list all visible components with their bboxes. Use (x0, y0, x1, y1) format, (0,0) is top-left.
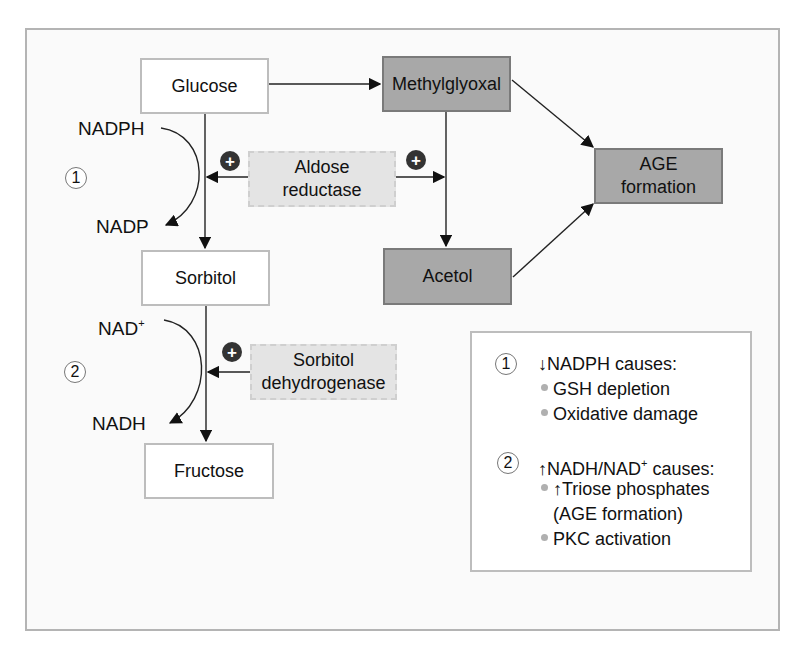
legend-bullet-continuation: (AGE formation) (553, 503, 683, 525)
methylglyoxal-label: Methylglyoxal (392, 73, 501, 96)
bullet-text: Oxidative damage (553, 404, 698, 424)
plus-symbol: + (411, 152, 421, 169)
methylglyoxal-node: Methylglyoxal (382, 56, 511, 112)
nadh-label: NADH (92, 413, 146, 435)
legend-heading-text-tail: causes: (647, 459, 714, 479)
bullet-icon (541, 534, 548, 541)
glucose-node: Glucose (140, 58, 269, 114)
nad-superscript: + (138, 317, 144, 329)
plus-symbol: + (227, 344, 237, 361)
legend-bullet: PKC activation (541, 528, 671, 550)
fructose-label: Fructose (174, 460, 244, 483)
legend-marker-1: 1 (495, 353, 517, 375)
legend-heading-2: ↑NADH/NAD+ causes: (538, 452, 715, 480)
nad-plus-label: NAD+ (98, 312, 145, 340)
bullet-text: (AGE formation) (553, 504, 683, 524)
legend-number: 2 (504, 455, 513, 471)
sorbitol-label: Sorbitol (175, 267, 236, 290)
activator-plus-icon: + (220, 151, 240, 171)
plus-symbol: + (225, 153, 235, 170)
sdh-label-line2: dehydrogenase (261, 372, 385, 395)
aldose-label-line1: Aldose (294, 156, 349, 179)
up-arrow-icon: ↑ (538, 459, 547, 479)
legend-heading-text: NADPH causes: (547, 354, 677, 374)
acetol-label: Acetol (422, 265, 472, 288)
bullet-text: GSH depletion (553, 379, 670, 399)
step-marker-1: 1 (65, 167, 87, 189)
bullet-icon (541, 409, 548, 416)
age-formation-node: AGE formation (594, 148, 723, 204)
age-label-line2: formation (621, 176, 696, 199)
step-marker-2: 2 (64, 361, 86, 383)
activator-plus-icon: + (406, 150, 426, 170)
legend-number: 1 (502, 356, 511, 372)
nadph-label: NADPH (78, 118, 145, 140)
legend-heading-text: NADH/NAD (547, 459, 641, 479)
legend-bullet: ↑Triose phosphates (541, 478, 709, 500)
step-number: 1 (72, 170, 81, 186)
sorbitol-node: Sorbitol (141, 250, 270, 306)
glucose-label: Glucose (171, 75, 237, 98)
down-arrow-icon: ↓ (538, 354, 547, 374)
acetol-node: Acetol (383, 248, 512, 305)
bullet-text: ↑Triose phosphates (553, 479, 709, 499)
fructose-node: Fructose (144, 443, 274, 499)
sorbitol-dehydrogenase-enzyme: Sorbitol dehydrogenase (250, 344, 397, 400)
nad-text: NAD (98, 318, 138, 339)
age-label-line1: AGE (639, 153, 677, 176)
legend-bullet: Oxidative damage (541, 403, 698, 425)
aldose-label-line2: reductase (282, 179, 361, 202)
sdh-label-line1: Sorbitol (293, 349, 354, 372)
bullet-text: PKC activation (553, 529, 671, 549)
bullet-icon (541, 484, 548, 491)
legend-bullet: GSH depletion (541, 378, 670, 400)
legend-heading-1: ↓NADPH causes: (538, 353, 677, 375)
nadp-label: NADP (96, 216, 149, 238)
polyol-pathway-diagram: Glucose Sorbitol Fructose Methylglyoxal … (0, 0, 804, 650)
aldose-reductase-enzyme: Aldose reductase (248, 151, 396, 207)
activator-plus-icon: + (222, 342, 242, 362)
step-number: 2 (71, 364, 80, 380)
bullet-icon (541, 384, 548, 391)
legend-marker-2: 2 (497, 452, 519, 474)
